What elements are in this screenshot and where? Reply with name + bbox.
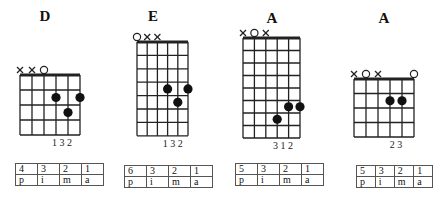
- table-cell: 2: [394, 166, 414, 177]
- finger-dot: [284, 102, 293, 111]
- finger-dot: [295, 102, 304, 111]
- table-cell: 2: [169, 166, 191, 177]
- chord-title: A: [267, 10, 278, 27]
- table-cell: a: [191, 177, 213, 188]
- table-row-strings: 5321: [236, 164, 324, 175]
- table-cell: 3: [38, 164, 60, 175]
- finger-dot: [385, 96, 394, 105]
- table-cell: i: [258, 175, 280, 186]
- finger-dot: [75, 93, 84, 102]
- table-cell: 4: [16, 164, 38, 175]
- table-cell: p: [125, 177, 147, 188]
- open-string-icon: [410, 70, 417, 77]
- table-row-fingers: pima: [125, 177, 213, 188]
- table-cell: 2: [60, 164, 82, 175]
- table-cell: 3: [147, 166, 169, 177]
- finger-dot: [163, 84, 172, 93]
- table-row-fingers: pima: [16, 175, 104, 186]
- pima-table: 5321pima: [235, 163, 324, 186]
- table-cell: 1: [302, 164, 324, 175]
- pima-table: 5321pima: [356, 165, 433, 188]
- table-cell: 5: [236, 164, 258, 175]
- table-cell: p: [357, 177, 376, 188]
- finger-dot: [63, 108, 72, 117]
- table-cell: 6: [125, 166, 147, 177]
- table-row-fingers: pima: [236, 175, 324, 186]
- table-row-strings: 4321: [16, 164, 104, 175]
- finger-dot: [173, 98, 182, 107]
- chord-title: D: [40, 8, 51, 25]
- table-cell: i: [375, 177, 394, 188]
- table-cell: m: [280, 175, 302, 186]
- table-cell: m: [394, 177, 414, 188]
- table-cell: a: [414, 177, 433, 188]
- open-string-icon: [362, 70, 369, 77]
- table-row-strings: 6321: [125, 166, 213, 177]
- table-cell: i: [38, 175, 60, 186]
- chord-title: E: [148, 8, 158, 25]
- fingering-label: 2 3: [390, 139, 403, 150]
- pima-table: 6321pima: [124, 165, 213, 188]
- open-string-icon: [133, 33, 140, 40]
- table-cell: 3: [258, 164, 280, 175]
- table-cell: p: [236, 175, 258, 186]
- fingering-label: 1 3 2: [163, 138, 183, 149]
- table-row-strings: 5321: [357, 166, 433, 177]
- open-string-icon: [40, 66, 47, 73]
- table-cell: m: [60, 175, 82, 186]
- table-cell: i: [147, 177, 169, 188]
- table-cell: 1: [414, 166, 433, 177]
- finger-dot: [183, 84, 192, 93]
- table-cell: 2: [280, 164, 302, 175]
- table-cell: a: [82, 175, 104, 186]
- finger-dot: [397, 96, 406, 105]
- table-cell: 1: [191, 166, 213, 177]
- table-cell: p: [16, 175, 38, 186]
- table-cell: 1: [82, 164, 104, 175]
- table-row-fingers: pima: [357, 177, 433, 188]
- table-cell: 5: [357, 166, 376, 177]
- pima-table: 4321pima: [15, 163, 104, 186]
- table-cell: m: [169, 177, 191, 188]
- finger-dot: [51, 93, 60, 102]
- fingering-label: 1 3 2: [52, 137, 72, 148]
- chord-title: A: [379, 10, 390, 27]
- table-cell: a: [302, 175, 324, 186]
- table-cell: 3: [375, 166, 394, 177]
- open-string-icon: [251, 29, 258, 36]
- fingering-label: 3 1 2: [273, 140, 293, 151]
- finger-dot: [273, 115, 282, 124]
